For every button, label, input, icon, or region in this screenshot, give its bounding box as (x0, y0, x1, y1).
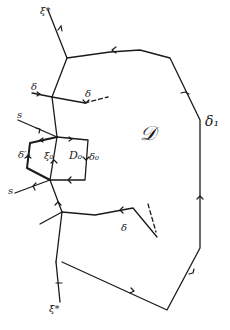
label-xi-star-top: ξ* (40, 6, 51, 16)
label-delta1: δ₁ (205, 114, 219, 128)
cut-s-bottom (15, 180, 50, 193)
edge-lower-junction (56, 212, 62, 262)
contour-diagram (0, 0, 230, 330)
label-delta0: δ₀ (89, 152, 99, 162)
label-delta-upper: δ (85, 89, 91, 99)
label-delta0-prime: δ′₀ (18, 150, 30, 160)
label-delta-left: δ (31, 82, 37, 92)
cut-delta-upper-in (32, 93, 52, 97)
label-region-D: 𝒟 (140, 123, 156, 143)
label-xi-star-bottom: ξ̄* (49, 304, 60, 314)
label-xi0: ξ₀ (44, 151, 54, 161)
label-s-bottom: s (8, 186, 13, 196)
ray-xi-bottom (56, 262, 60, 302)
label-s-top: s (17, 110, 22, 120)
cut-delta-upper (52, 97, 85, 103)
edge-lower (50, 180, 62, 212)
label-region-D0: D₀ (69, 150, 82, 161)
label-delta-lower: δ (121, 223, 127, 233)
cut-delta-lower (62, 208, 157, 237)
stub-lower-left (40, 212, 62, 224)
ray-xi-top (48, 10, 67, 58)
edge-to-hexagon (52, 97, 57, 137)
edge-top-junction (52, 58, 67, 97)
